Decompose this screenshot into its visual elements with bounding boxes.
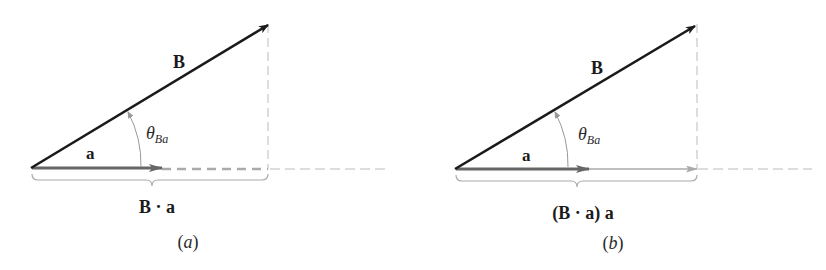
vector-b-arrow <box>455 26 695 169</box>
panel-caption: (a) <box>178 232 199 253</box>
vector-a-label: a <box>86 144 95 163</box>
vector-a-label: a <box>522 146 531 165</box>
brace <box>456 175 697 187</box>
panel-b: B a θBa (B · a) a (b) <box>455 24 812 254</box>
angle-arc-arrow <box>555 112 568 167</box>
vector-b-label: B <box>173 52 185 72</box>
brace-label: B · a <box>139 197 175 217</box>
dot-product-figure: B a θBa B · a (a) B a θBa (B · a) a (b) <box>0 0 826 270</box>
vector-b-arrow <box>31 25 268 168</box>
panel-caption: (b) <box>603 233 624 254</box>
vector-b-label: B <box>591 58 603 78</box>
angle-label: θBa <box>578 124 600 147</box>
angle-label: θBa <box>146 123 168 146</box>
brace <box>32 174 268 186</box>
brace-label: (B · a) a <box>552 203 614 224</box>
angle-arc-arrow <box>128 112 141 167</box>
panel-a: B a θBa B · a (a) <box>31 24 385 253</box>
